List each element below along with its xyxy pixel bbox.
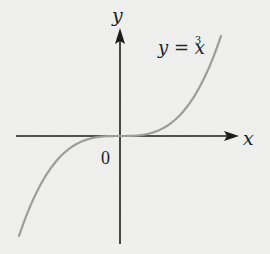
x-axis-label: x bbox=[243, 127, 254, 149]
background bbox=[0, 0, 270, 254]
cubic-function-graph: y x 0 y = x 3 bbox=[0, 0, 270, 254]
y-axis-label: y bbox=[111, 4, 123, 26]
curve-equation-label: y = x 3 bbox=[157, 33, 205, 58]
origin-label: 0 bbox=[101, 148, 110, 168]
plot-area: y x 0 y = x 3 bbox=[0, 0, 270, 254]
equation-exponent: 3 bbox=[195, 33, 201, 47]
